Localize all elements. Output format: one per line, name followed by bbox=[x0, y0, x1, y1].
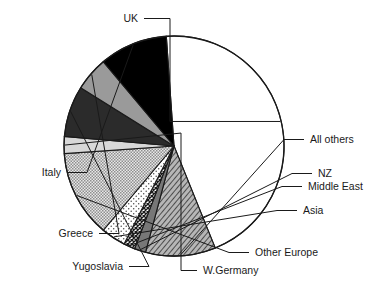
pie-chart-figure: UKAll othersNZMiddle EastAsiaOther Europ… bbox=[0, 0, 390, 293]
pie-label-asia: Asia bbox=[303, 204, 324, 216]
pie-label-greece: Greece bbox=[59, 227, 94, 239]
pie-label-italy: Italy bbox=[42, 166, 62, 178]
pie-chart-svg: UKAll othersNZMiddle EastAsiaOther Europ… bbox=[0, 0, 390, 293]
pie-label-w-germany: W.Germany bbox=[203, 264, 259, 276]
pie-label-nz: NZ bbox=[318, 167, 333, 179]
pie-label-other-europe: Other Europe bbox=[255, 246, 318, 258]
pie-label-all-others: All others bbox=[310, 133, 354, 145]
pie-label-uk: UK bbox=[123, 12, 138, 24]
pie-label-middle-east: Middle East bbox=[308, 180, 363, 192]
pie-label-yugoslavia: Yugoslavia bbox=[72, 260, 123, 272]
